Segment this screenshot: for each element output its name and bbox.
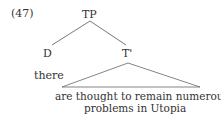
word-there: there (34, 70, 64, 82)
yield-line-1: are thought to remain numerous (55, 90, 221, 102)
yield-line-2: problems in Utopia (84, 102, 186, 114)
node-t-bar: T' (122, 48, 132, 60)
node-tp: TP (82, 9, 97, 21)
example-number: (47) (11, 8, 34, 20)
node-d: D (43, 48, 52, 60)
